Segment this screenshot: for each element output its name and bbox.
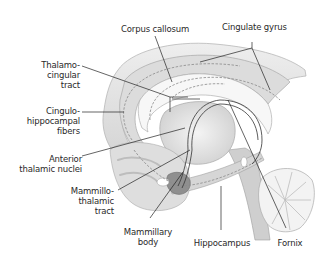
label-thalamo-cingular-tract: Thalamo- cingular tract bbox=[32, 60, 80, 90]
label-hippocampus: Hippocampus bbox=[192, 238, 252, 248]
label-mammillothalamic-tract: Mammillo- thalamic tract bbox=[62, 186, 114, 216]
cerebellum bbox=[259, 168, 315, 231]
label-cingulo-hippocampal-fibers: Cingulo- hippocampal fibers bbox=[22, 106, 80, 136]
label-corpus-callosum: Corpus callosum bbox=[121, 24, 189, 34]
label-cingulate-gyrus: Cingulate gyrus bbox=[222, 22, 287, 32]
label-mammillary-body: Mammillary body bbox=[118, 227, 178, 247]
limbic-diagram: Corpus callosum Cingulate gyrus Thalamo-… bbox=[0, 0, 323, 262]
label-fornix: Fornix bbox=[270, 238, 310, 248]
label-anterior-thalamic-nuclei: Anterior thalamic nuclei bbox=[12, 154, 82, 174]
